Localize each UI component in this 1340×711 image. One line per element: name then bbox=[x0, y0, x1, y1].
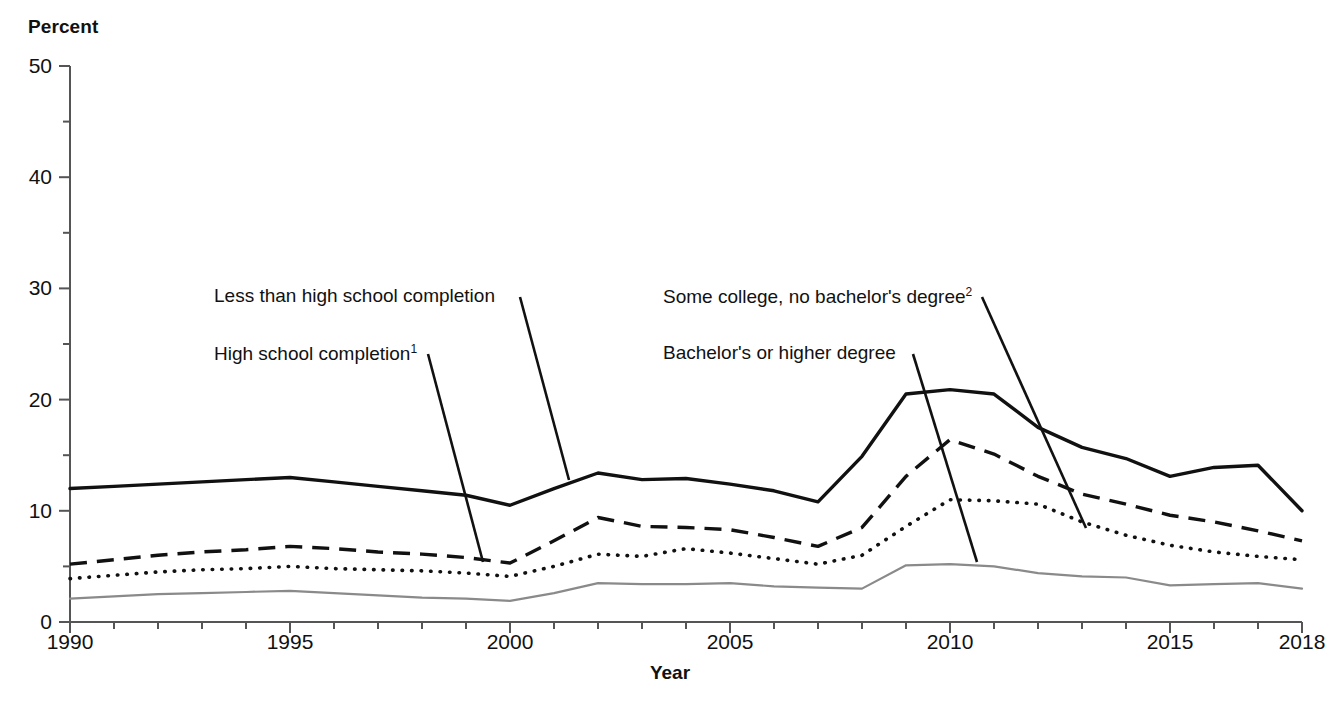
y-tick-label: 20 bbox=[6, 388, 52, 412]
leader-line-4 bbox=[913, 354, 977, 562]
chart-container: Percent 01020304050 19901995200020052010… bbox=[0, 0, 1340, 711]
x-tick-label: 1990 bbox=[47, 630, 94, 654]
series-label-text: High school completion bbox=[214, 343, 410, 364]
x-axis-title: Year bbox=[0, 662, 1340, 684]
data-series-group bbox=[70, 390, 1302, 601]
series-label-text: Less than high school completion bbox=[214, 285, 495, 306]
series-label-4: Bachelor's or higher degree bbox=[663, 342, 896, 364]
x-tick-label: 2015 bbox=[1147, 630, 1194, 654]
series-label-text: Some college, no bachelor's degree bbox=[663, 286, 966, 307]
x-tick-label: 2018 bbox=[1279, 630, 1326, 654]
series-line-2 bbox=[70, 440, 1302, 565]
leader-line-3 bbox=[982, 297, 1086, 528]
series-label-1: Less than high school completion bbox=[214, 285, 495, 307]
series-label-3: Some college, no bachelor's degree2 bbox=[663, 285, 972, 308]
series-label-2: High school completion1 bbox=[214, 342, 417, 365]
y-tick-label: 10 bbox=[6, 499, 52, 523]
leader-line-1 bbox=[520, 297, 569, 480]
x-tick-label: 2010 bbox=[927, 630, 974, 654]
leader-line-2 bbox=[428, 354, 483, 562]
footnote-marker: 2 bbox=[966, 285, 973, 299]
y-tick-label: 50 bbox=[6, 54, 52, 78]
y-tick-label: 30 bbox=[6, 276, 52, 300]
series-label-text: Bachelor's or higher degree bbox=[663, 342, 896, 363]
annotation-leader-lines bbox=[428, 297, 1086, 562]
series-line-3 bbox=[70, 500, 1302, 579]
x-tick-label: 2005 bbox=[707, 630, 754, 654]
x-tick-label: 2000 bbox=[487, 630, 534, 654]
series-line-1 bbox=[70, 390, 1302, 511]
series-line-4 bbox=[70, 564, 1302, 601]
footnote-marker: 1 bbox=[410, 342, 417, 356]
y-tick-label: 40 bbox=[6, 165, 52, 189]
x-tick-label: 1995 bbox=[267, 630, 314, 654]
y-tick-label: 0 bbox=[6, 610, 52, 634]
